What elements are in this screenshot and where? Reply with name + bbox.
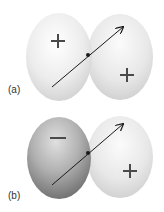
nucleus-dot-icon [86, 151, 90, 155]
lobe-a-left [26, 13, 92, 101]
panel-b [27, 116, 153, 199]
lobe-a-right [87, 14, 153, 100]
lobe-b-left [27, 117, 91, 199]
panel-a-label: (a) [8, 84, 20, 95]
lobe-b-right [87, 116, 153, 198]
orbital-diagram [0, 0, 164, 212]
panel-b-label: (b) [8, 190, 20, 201]
nucleus-dot-icon [86, 53, 90, 57]
panel-a [26, 13, 153, 101]
